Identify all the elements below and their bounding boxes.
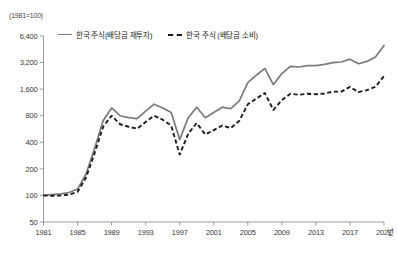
y-axis-tick-label: 50 bbox=[30, 218, 38, 227]
chart-plot-area: 6,4003,2001,60080040020010050 1981198519… bbox=[0, 0, 398, 258]
y-axis: 6,4003,2001,60080040020010050 bbox=[20, 32, 44, 227]
y-axis-tick-label: 100 bbox=[26, 191, 38, 200]
x-axis-tick-label: 2017 bbox=[342, 228, 358, 237]
x-axis-tick-label: 2009 bbox=[274, 228, 290, 237]
chart-container: (1981=100) 한국 주식(배당금 재투자) 한국 주식 (배당금 소비)… bbox=[0, 0, 398, 258]
x-axis-tick-label: 2013 bbox=[308, 228, 324, 237]
x-axis-tick-label: 1981 bbox=[36, 228, 52, 237]
x-axis-tick-label: 1997 bbox=[172, 228, 188, 237]
y-axis-tick-label: 3,200 bbox=[20, 58, 38, 67]
data-series-group bbox=[44, 45, 385, 195]
series-line-consumed bbox=[44, 76, 385, 196]
y-axis-tick-label: 200 bbox=[26, 165, 38, 174]
y-axis-tick-label: 800 bbox=[26, 111, 38, 120]
x-axis-tick-label: 2005 bbox=[240, 228, 256, 237]
x-axis: 1981198519891993199720012005200920132017… bbox=[36, 222, 392, 237]
y-axis-tick-label: 6,400 bbox=[20, 32, 38, 41]
series-line-reinvested bbox=[44, 45, 385, 195]
x-axis-unit-label: 년 bbox=[387, 227, 394, 237]
x-axis-tick-label: 1989 bbox=[104, 228, 120, 237]
y-axis-tick-label: 1,600 bbox=[20, 85, 38, 94]
x-axis-tick-label: 2001 bbox=[206, 228, 222, 237]
y-axis-tick-label: 400 bbox=[26, 138, 38, 147]
x-axis-tick-label: 1993 bbox=[138, 228, 154, 237]
x-axis-tick-label: 1985 bbox=[70, 228, 86, 237]
